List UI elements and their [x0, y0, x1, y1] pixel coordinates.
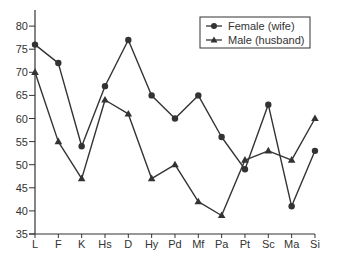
circle-marker-icon	[218, 134, 224, 140]
series-layer	[31, 37, 319, 218]
y-tick-label: 40	[16, 205, 28, 217]
series-female	[32, 37, 318, 210]
x-tick-label: D	[124, 238, 132, 250]
circle-marker-icon	[32, 41, 38, 47]
legend: Female (wife) Male (husband)	[200, 17, 310, 48]
triangle-marker-icon	[218, 212, 226, 219]
y-tick-label: 45	[16, 182, 28, 194]
legend-label-male: Male (husband)	[228, 34, 304, 46]
circle-marker-icon	[195, 92, 201, 98]
circle-marker-icon	[125, 37, 131, 43]
legend-label-female: Female (wife)	[228, 20, 295, 32]
y-tick-label: 35	[16, 228, 28, 240]
y-tick-label: 50	[16, 159, 28, 171]
circle-marker-icon	[288, 203, 294, 209]
triangle-marker-icon	[101, 96, 109, 103]
y-tick-label: 65	[16, 89, 28, 101]
circle-marker-icon	[78, 143, 84, 149]
series-line	[35, 72, 315, 215]
x-tick-label: Sc	[262, 238, 275, 250]
series-male	[31, 68, 319, 218]
y-tick-label: 55	[16, 136, 28, 148]
triangle-marker-icon	[171, 161, 179, 168]
x-tick-label: Hy	[145, 238, 159, 250]
triangle-marker-icon	[125, 110, 133, 117]
x-tick-label: F	[55, 238, 62, 250]
y-tick-label: 60	[16, 113, 28, 125]
circle-marker-icon	[172, 115, 178, 121]
triangle-marker-icon	[55, 138, 63, 145]
x-tick-label: K	[78, 238, 86, 250]
triangle-marker-icon	[148, 175, 156, 182]
line-chart: 35404550556065707580LFKHsDHyPdMfPaPtScMa…	[0, 0, 340, 265]
x-tick-label: Mf	[192, 238, 205, 250]
circle-marker-icon	[55, 60, 61, 66]
x-tick-label: Si	[310, 238, 320, 250]
circle-marker-icon	[312, 148, 318, 154]
x-tick-label: L	[32, 238, 38, 250]
y-tick-label: 80	[16, 20, 28, 32]
triangle-marker-icon	[265, 147, 273, 154]
x-tick-label: Pt	[240, 238, 250, 250]
circle-marker-icon	[102, 83, 108, 89]
circle-marker-icon	[211, 23, 217, 29]
series-line	[35, 40, 315, 206]
circle-marker-icon	[148, 92, 154, 98]
y-tick-label: 70	[16, 66, 28, 78]
x-tick-label: Ma	[284, 238, 300, 250]
x-tick-label: Pa	[215, 238, 229, 250]
x-tick-label: Pd	[168, 238, 181, 250]
circle-marker-icon	[265, 101, 271, 107]
y-tick-label: 75	[16, 43, 28, 55]
x-tick-label: Hs	[98, 238, 112, 250]
triangle-marker-icon	[311, 115, 319, 122]
triangle-marker-icon	[31, 68, 39, 75]
